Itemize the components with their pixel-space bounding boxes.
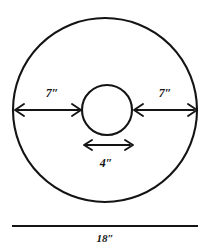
annulus-diagram: Annulus cross-section with dimensions 7″…	[0, 0, 213, 249]
inner-diameter-label: 4″	[99, 156, 113, 170]
overall-width-dimension: 18″	[12, 226, 198, 244]
right-width-dimension: 7″	[134, 86, 197, 116]
left-width-dimension: 7″	[15, 86, 81, 116]
right-width-label: 7″	[159, 86, 172, 100]
diagram-canvas: Annulus cross-section with dimensions 7″…	[0, 0, 213, 249]
inner-circle	[82, 85, 132, 135]
overall-width-label: 18″	[96, 232, 113, 244]
left-width-label: 7″	[46, 86, 59, 100]
inner-diameter-dimension: 4″	[84, 140, 133, 170]
